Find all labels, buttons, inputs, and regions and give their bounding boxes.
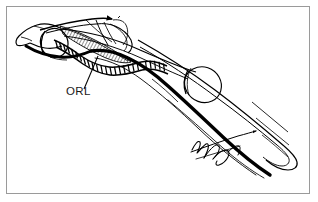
anatomical-illustration: ORL: [0, 0, 318, 202]
illustration-background: [7, 7, 309, 193]
figure-root: ORL: [0, 0, 318, 202]
orl-label: ORL: [66, 85, 91, 97]
